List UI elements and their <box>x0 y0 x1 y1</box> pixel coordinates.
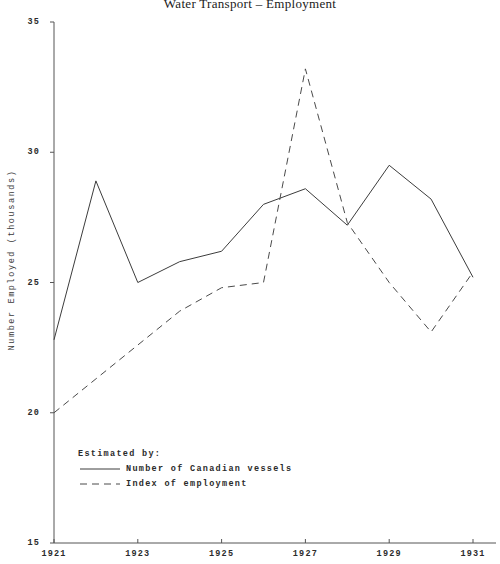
y-tick-label: 15 <box>6 538 40 548</box>
y-tick-label: 35 <box>6 17 40 27</box>
y-tick-label: 20 <box>6 408 40 418</box>
legend-sample-lines <box>80 469 120 484</box>
y-tick-label: 30 <box>6 147 40 157</box>
plot-area <box>0 0 500 564</box>
chart-title: Water Transport – Employment <box>0 0 500 12</box>
x-tick-label: 1925 <box>192 549 252 559</box>
legend-label-vessels: Number of Canadian vessels <box>126 464 292 474</box>
x-tick-label: 1927 <box>275 549 335 559</box>
chart-figure: Water Transport – Employment Number Empl… <box>0 0 500 564</box>
series-line-1 <box>54 69 473 413</box>
data-series-group <box>54 69 473 413</box>
legend-label-employment-index: Index of employment <box>126 479 248 489</box>
series-line-0 <box>54 165 473 340</box>
y-tick-label: 25 <box>6 278 40 288</box>
x-tick-label: 1931 <box>443 549 500 559</box>
y-axis-label: Number Employed (thousands) <box>7 160 17 360</box>
x-tick-label: 1921 <box>24 549 84 559</box>
x-tick-label: 1929 <box>359 549 419 559</box>
legend-title: Estimated by: <box>78 449 161 459</box>
x-tick-label: 1923 <box>108 549 168 559</box>
